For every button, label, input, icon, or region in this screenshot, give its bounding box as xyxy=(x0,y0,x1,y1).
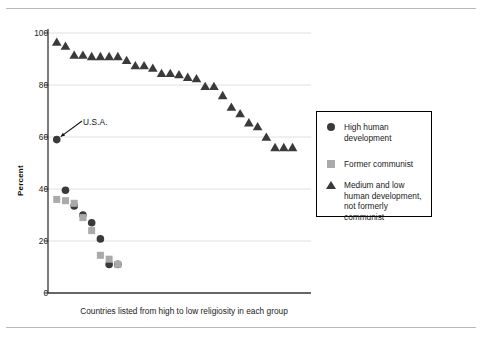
axis-lines xyxy=(48,29,311,293)
square-data-point xyxy=(106,256,113,263)
figure-container: 020406080100 Percent Countries listed fr… xyxy=(0,0,482,339)
triangle-data-point xyxy=(200,82,210,90)
triangle-data-point xyxy=(253,122,263,130)
square-data-point xyxy=(79,214,86,221)
square-data-point xyxy=(53,196,60,203)
legend-item-label: High human development xyxy=(344,122,429,143)
triangle-data-point xyxy=(288,143,298,151)
triangle-data-point xyxy=(104,52,114,60)
triangle-data-point xyxy=(87,52,97,60)
triangle-data-point xyxy=(52,38,62,46)
circle-data-point xyxy=(53,136,61,144)
triangle-data-point xyxy=(139,61,149,69)
triangle-data-point xyxy=(174,70,184,78)
triangle-data-point xyxy=(209,82,219,90)
triangle-data-point xyxy=(218,91,228,99)
triangle-data-point xyxy=(165,69,175,77)
triangle-data-point xyxy=(148,64,158,72)
triangle-data-point xyxy=(61,41,71,49)
triangle-data-point xyxy=(262,132,272,140)
square-data-point xyxy=(71,200,78,207)
square-glyph xyxy=(327,160,335,168)
legend-item-label: Medium and low human development, not fo… xyxy=(344,180,429,222)
triangle-data-point xyxy=(96,52,106,60)
legend-item-2[interactable]: Former communist xyxy=(325,159,429,170)
triangle-data-point xyxy=(192,74,202,82)
triangle-data-point xyxy=(122,56,132,64)
triangle-data-point xyxy=(69,51,79,59)
circle-glyph xyxy=(327,123,335,131)
triangle-data-point xyxy=(244,118,254,126)
circle-data-point xyxy=(62,187,70,195)
usa-arrow-icon xyxy=(61,121,82,137)
square-marker xyxy=(325,159,337,168)
legend-item-1[interactable]: High human development xyxy=(325,122,429,143)
triangle-data-point xyxy=(270,143,280,151)
legend: High human developmentFormer communistMe… xyxy=(316,111,432,217)
triangle-data-point xyxy=(157,69,167,77)
circle-data-point xyxy=(97,235,105,243)
legend-item-label: Former communist xyxy=(344,159,413,170)
circle-marker xyxy=(325,122,337,131)
triangle-data-point xyxy=(227,103,237,111)
circle-data-point xyxy=(88,219,96,227)
triangle-data-point xyxy=(78,51,88,59)
data-markers xyxy=(52,38,297,269)
gridlines xyxy=(48,33,311,241)
square-data-point xyxy=(114,261,121,268)
triangle-data-point xyxy=(183,73,193,81)
square-data-point xyxy=(88,227,95,234)
triangle-data-point xyxy=(235,109,245,117)
triangle-data-point xyxy=(113,52,123,60)
triangle-data-point xyxy=(279,143,289,151)
triangle-marker xyxy=(325,180,337,189)
square-data-point xyxy=(97,252,104,259)
square-data-point xyxy=(62,197,69,204)
triangle-glyph xyxy=(326,181,336,189)
legend-item-3[interactable]: Medium and low human development, not fo… xyxy=(325,180,429,222)
triangle-data-point xyxy=(131,61,141,69)
